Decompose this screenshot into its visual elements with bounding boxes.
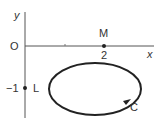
point-m-label: M <box>99 27 108 39</box>
point-l <box>23 86 27 90</box>
y-axis-label: y <box>13 9 21 21</box>
curve-c <box>49 63 141 115</box>
point-l-label: L <box>33 82 39 94</box>
point-m-tick-label: 2 <box>101 49 107 61</box>
point-m <box>102 44 106 48</box>
curve-c-label: C <box>130 101 138 113</box>
diagram-canvas: y x O M 2 −1 L C <box>0 0 159 121</box>
point-l-tick-label: −1 <box>6 82 19 94</box>
origin-label: O <box>10 40 19 52</box>
x-axis-label: x <box>146 48 153 60</box>
